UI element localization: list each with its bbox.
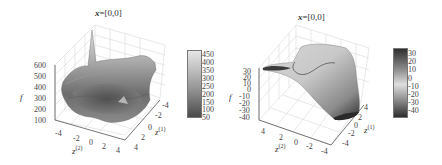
right-y-tick: -4 bbox=[342, 140, 349, 148]
left-x-tick: -2 bbox=[73, 135, 80, 143]
right-x-tick: -2 bbox=[306, 143, 313, 151]
left-y-tick: -2 bbox=[155, 112, 162, 120]
right-plot-title: x=[0,0] bbox=[298, 12, 325, 22]
right-y-tick: 4 bbox=[364, 104, 368, 112]
right-x-tick: -4 bbox=[321, 148, 328, 156]
right-z-tick: -40 bbox=[239, 114, 250, 122]
left-y-tick: 0 bbox=[148, 124, 152, 132]
right-colorbar-tick: 10 bbox=[408, 66, 416, 74]
left-x-tick: 2 bbox=[102, 143, 106, 151]
left-z-tick: 200 bbox=[34, 106, 46, 114]
left-z-label: f bbox=[20, 92, 23, 102]
left-colorbar bbox=[187, 50, 202, 118]
right-z-label: f bbox=[229, 92, 232, 102]
left-y-tick: 4 bbox=[134, 144, 138, 152]
left-z-tick: 300 bbox=[34, 95, 46, 103]
right-y-tick: 2 bbox=[358, 114, 362, 122]
right-x-tick: 2 bbox=[279, 134, 283, 142]
left-x-tick: -4 bbox=[55, 130, 62, 138]
left-x-tick: 4 bbox=[116, 147, 120, 155]
right-colorbar bbox=[393, 48, 408, 118]
left-z-tick: 600 bbox=[34, 62, 46, 70]
right-colorbar-tick: -40 bbox=[408, 107, 419, 115]
left-y-tick: 2 bbox=[141, 134, 145, 142]
left-y-label: z(1) bbox=[155, 126, 166, 137]
right-plot: x=[0,0] 30 20 10 0 -10 -20 -30 -40 f 4 2… bbox=[221, 0, 442, 165]
right-x-label: z(2) bbox=[275, 143, 286, 154]
left-z-tick: 400 bbox=[34, 84, 46, 92]
left-z-tick: 100 bbox=[34, 117, 46, 125]
left-x-tick: 0 bbox=[89, 139, 93, 147]
right-y-tick: -2 bbox=[348, 130, 355, 138]
left-y-tick: -4 bbox=[162, 102, 169, 110]
left-plot-title: x=[0,0] bbox=[95, 8, 122, 18]
left-colorbar-tick: 50 bbox=[202, 114, 210, 122]
left-z-tick: 500 bbox=[34, 73, 46, 81]
right-y-label: z(1) bbox=[364, 124, 375, 135]
left-x-label: z(2) bbox=[72, 145, 83, 156]
right-x-tick: 0 bbox=[294, 139, 298, 147]
right-x-tick: 4 bbox=[261, 128, 265, 136]
left-plot: x=[0,0] 600 500 400 300 200 100 f -4 -2 … bbox=[0, 0, 221, 165]
